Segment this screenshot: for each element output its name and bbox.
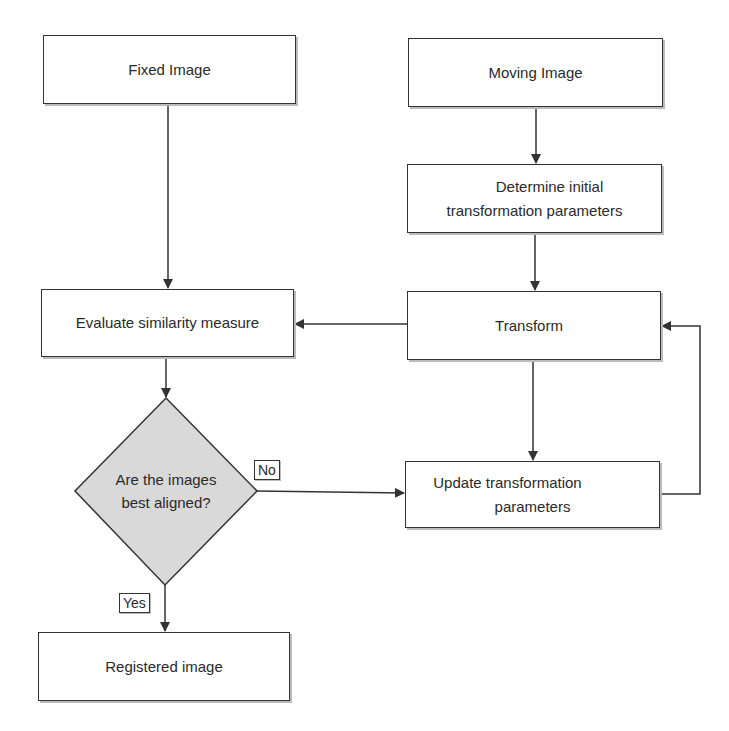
determine-params-label-line2: transformation parameters — [447, 199, 623, 223]
no-label-text: No — [258, 462, 276, 478]
no-label: No — [254, 460, 280, 480]
yes-label: Yes — [119, 593, 150, 613]
decision-label-line1: Are the images — [96, 468, 236, 491]
fixed-image-node: Fixed Image — [43, 35, 296, 104]
update-params-node: Update transformation parameters — [405, 461, 660, 528]
determine-params-label-line1: Determine initial — [466, 175, 604, 199]
arrow-decision-no-to-update — [257, 491, 404, 493]
arrow-update-loop-to-transform — [660, 326, 700, 494]
yes-label-text: Yes — [123, 595, 146, 611]
update-params-label-line2: parameters — [495, 495, 571, 519]
evaluate-similarity-label: Evaluate similarity measure — [76, 311, 259, 335]
decision-label: Are the images best aligned? — [96, 468, 236, 514]
determine-params-node: Determine initial transformation paramet… — [407, 164, 662, 233]
moving-image-node: Moving Image — [408, 38, 663, 107]
registered-image-node: Registered image — [38, 632, 290, 701]
evaluate-similarity-node: Evaluate similarity measure — [41, 289, 294, 357]
registered-image-label: Registered image — [105, 655, 223, 679]
connector-layer — [0, 0, 729, 731]
moving-image-label: Moving Image — [488, 61, 582, 85]
decision-label-line2: best aligned? — [96, 491, 236, 514]
transform-label: Transform — [495, 314, 563, 338]
transform-node: Transform — [407, 291, 661, 360]
fixed-image-label: Fixed Image — [128, 58, 211, 82]
update-params-label-line1: Update transformation — [433, 471, 581, 495]
